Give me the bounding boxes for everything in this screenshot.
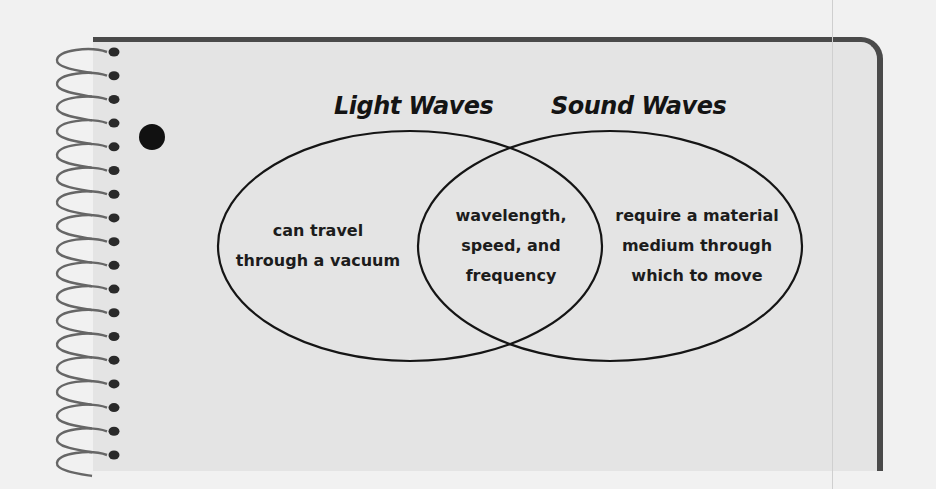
label-line: which to move xyxy=(615,261,778,291)
shared-properties-label: wavelength, speed, and frequency xyxy=(455,201,566,291)
light-waves-title: Light Waves xyxy=(334,92,493,120)
spiral-binding-icon xyxy=(57,48,120,477)
notebook-illustration: Light Waves Sound Waves can travel throu… xyxy=(0,0,936,489)
label-line: wavelength, xyxy=(455,201,566,231)
light-waves-unique-label: can travel through a vacuum xyxy=(236,216,400,276)
label-line: require a material xyxy=(615,201,778,231)
label-line: frequency xyxy=(455,261,566,291)
label-line: can travel xyxy=(236,216,400,246)
sound-waves-unique-label: require a material medium through which … xyxy=(615,201,778,291)
label-line: through a vacuum xyxy=(236,246,400,276)
label-line: medium through xyxy=(615,231,778,261)
punch-hole-icon xyxy=(139,124,165,150)
label-line: speed, and xyxy=(455,231,566,261)
sound-waves-title: Sound Waves xyxy=(551,92,726,120)
